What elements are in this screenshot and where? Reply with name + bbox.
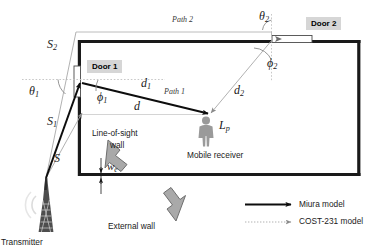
cost231-path (46, 32, 282, 178)
symbol-S: S (54, 152, 60, 164)
legend-samples (245, 205, 291, 223)
symbol-Lp: Lp (219, 119, 230, 133)
symbol-theta2: θ2 (259, 10, 269, 24)
symbol-phi1: ϕ1 (97, 91, 107, 105)
mobile-receiver-label: Mobile receiver (187, 151, 243, 159)
legend-item-miura: Miura model (299, 200, 345, 208)
symbol-d: d (134, 100, 140, 112)
line-of-sight-wall-label-line1: Line-of-sight (92, 129, 138, 137)
symbol-we: we (107, 161, 118, 173)
symbol-theta1: θ1 (29, 85, 39, 99)
door-1-label: Door 1 (87, 60, 122, 73)
symbol-phi2: ϕ2 (267, 57, 277, 71)
symbol-d1: d1 (141, 77, 151, 91)
external-wall-pointer-icon (164, 188, 186, 222)
line-of-sight-wall-label-line2: wall (110, 141, 124, 149)
symbol-S1: S1 (47, 115, 57, 129)
path-2-label: Path 2 (172, 16, 193, 24)
legend-item-cost231: COST-231 model (299, 217, 363, 225)
transmitter-tower-icon (25, 178, 53, 232)
path-1-label: Path 1 (164, 88, 185, 96)
diagram-canvas: Path 2 Path 1 Door 1 Door 2 S S1 S2 θ1 θ… (0, 0, 374, 249)
symbol-S2: S2 (47, 38, 57, 52)
transmitter-label: Transmitter (1, 238, 43, 246)
door-2-label: Door 2 (306, 17, 341, 30)
external-wall-label: External wall (108, 222, 155, 230)
symbol-d2: d2 (234, 84, 244, 98)
mobile-receiver-person-icon (199, 117, 214, 147)
